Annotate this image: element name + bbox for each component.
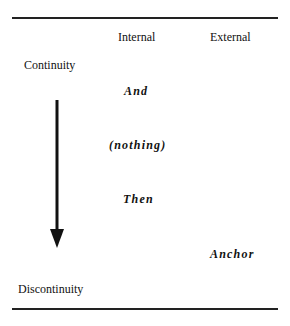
bottom-rule (12, 308, 278, 310)
row-label-discontinuity: Discontinuity (18, 282, 83, 297)
down-arrow-icon (0, 0, 290, 326)
